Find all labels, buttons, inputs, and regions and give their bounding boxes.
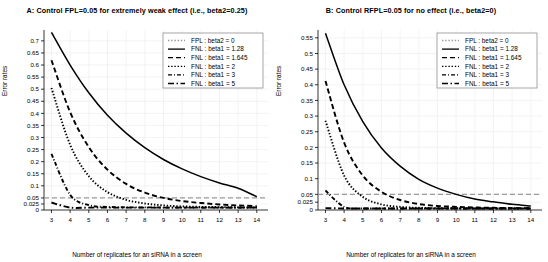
y-tick-label: 0 <box>310 206 314 213</box>
y-tick-label: 0.3 <box>30 134 39 141</box>
x-tick-label: 12 <box>216 216 223 223</box>
x-tick-label: 9 <box>436 216 440 223</box>
legend-label-3: FNL : beta1 = 2 <box>465 63 509 70</box>
series-line-3 <box>51 88 256 207</box>
y-tick-label: 0.6 <box>30 61 39 68</box>
x-tick-label: 10 <box>179 216 186 223</box>
legend-label-0: FPL : beta2 = 0 <box>465 37 509 44</box>
x-tick-label: 5 <box>87 216 91 223</box>
x-tick-label: 7 <box>398 216 402 223</box>
x-tick-label: 7 <box>124 216 128 223</box>
y-tick-label: 0.35 <box>301 97 314 104</box>
x-tick-label: 5 <box>361 216 365 223</box>
y-tick-label: 0.025 <box>24 200 40 207</box>
x-tick-label: 8 <box>417 216 421 223</box>
legend-label-0: FPL : beta2 = 0 <box>191 37 235 44</box>
x-tick-label: 6 <box>380 216 384 223</box>
series-line-3 <box>325 121 530 209</box>
y-tick-label: 0.55 <box>301 34 314 41</box>
y-tick-label: 0.4 <box>30 110 39 117</box>
y-tick-label: 0.5 <box>304 50 313 57</box>
x-tick-label: 10 <box>453 216 460 223</box>
x-tick-label: 9 <box>162 216 166 223</box>
legend-label-4: FNL : beta1 = 3 <box>191 71 235 78</box>
x-tick-label: 14 <box>527 216 534 223</box>
y-tick-label: 0.2 <box>304 144 313 151</box>
y-tick-label: 0.45 <box>301 65 314 72</box>
x-tick-label: 3 <box>324 216 328 223</box>
y-tick-label: 0.65 <box>27 49 40 56</box>
x-tick-label: 13 <box>509 216 516 223</box>
y-tick-label: 0.15 <box>301 159 314 166</box>
y-tick-label: 0.4 <box>304 81 313 88</box>
x-tick-label: 11 <box>472 216 479 223</box>
y-tick-label: 0.15 <box>27 170 40 177</box>
legend-label-4: FNL : beta1 = 3 <box>465 71 509 78</box>
x-tick-label: 11 <box>198 216 205 223</box>
chart-panel-a: A: Control FPL=0.05 for extremely weak e… <box>0 0 274 262</box>
x-tick-label: 4 <box>342 216 346 223</box>
y-tick-label: 0.35 <box>27 122 40 129</box>
legend-label-5: FNL : beta1 = 5 <box>465 80 509 87</box>
y-tick-label: 0.1 <box>30 182 39 189</box>
x-tick-label: 14 <box>253 216 260 223</box>
x-tick-label: 4 <box>68 216 72 223</box>
y-tick-label: 0.55 <box>27 73 40 80</box>
y-tick-label: 0.45 <box>27 97 40 104</box>
y-tick-label: 0.5 <box>30 85 39 92</box>
y-tick-label: 0.2 <box>30 158 39 165</box>
y-tick-label: 0.05 <box>301 191 314 198</box>
x-tick-label: 12 <box>490 216 497 223</box>
y-tick-label: 0.3 <box>304 112 313 119</box>
x-tick-label: 13 <box>235 216 242 223</box>
legend-label-1: FNL : beta1 = 1.28 <box>191 45 244 52</box>
legend-label-2: FNL : beta1 = 1.645 <box>191 54 248 61</box>
y-tick-label: 0.025 <box>298 198 314 205</box>
chart-panel-b: B: Control RFPL=0.05 for no effect (i.e.… <box>274 0 548 262</box>
y-tick-label: 0 <box>36 206 40 213</box>
figure-two-panel-error-rate-plots: A: Control FPL=0.05 for extremely weak e… <box>0 0 548 262</box>
x-tick-label: 8 <box>143 216 147 223</box>
y-tick-label: 0.25 <box>301 128 314 135</box>
legend-label-5: FNL : beta1 = 5 <box>191 80 235 87</box>
legend-label-2: FNL : beta1 = 1.645 <box>465 54 522 61</box>
plot-area: 00.0250.050.10.150.20.250.30.350.40.450.… <box>0 0 274 262</box>
legend-label-1: FNL : beta1 = 1.28 <box>465 45 518 52</box>
x-tick-label: 3 <box>50 216 54 223</box>
y-tick-label: 0.05 <box>27 194 40 201</box>
legend-label-3: FNL : beta1 = 2 <box>191 63 235 70</box>
x-tick-label: 6 <box>106 216 110 223</box>
plot-area: 00.0250.050.10.150.20.250.30.350.40.450.… <box>274 0 548 262</box>
y-tick-label: 0.1 <box>304 175 313 182</box>
y-tick-label: 0.7 <box>30 37 39 44</box>
y-tick-label: 0.25 <box>27 146 40 153</box>
